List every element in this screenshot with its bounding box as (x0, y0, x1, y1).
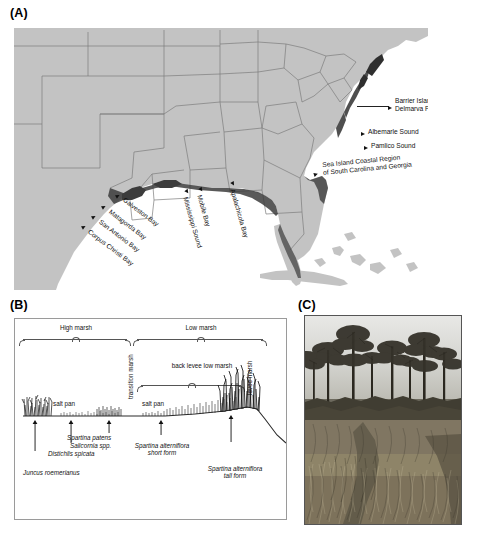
vegetation-juncus (22, 395, 52, 416)
panel-a-label: (A) (10, 6, 28, 20)
marsh-profile-graphic (15, 319, 286, 519)
spartina-short-line2: short form (148, 449, 176, 456)
panel-c-photograph (304, 315, 462, 525)
spartina-short-line1: Spartina alterniflora (135, 442, 190, 449)
arrowhead-pamlico (364, 146, 368, 150)
arrowhead-delmarva (388, 106, 392, 110)
species-label-juncus: Juncus roemerianus (23, 469, 80, 476)
spartina-tall-line2: tall form (224, 472, 246, 479)
species-label-spartina-alterniflora-short: Spartina alterniflorashort form (121, 442, 203, 457)
panel-a-map: Barrier Islands of theDelmarva Peninsula… (14, 28, 428, 290)
leader-delmarva (357, 106, 389, 107)
vegetation-transition-patch (97, 406, 121, 416)
arrowhead-albemarle (361, 132, 365, 136)
photo-grass-blades (305, 316, 461, 524)
species-label-salicornia: Salicornia spp. (70, 442, 111, 449)
species-label-spartina-alterniflora-tall: Spartina alternifloratall form (191, 465, 279, 480)
delmarva-line1: Barrier Islands of the (395, 97, 428, 104)
panel-b-label: (B) (10, 298, 28, 312)
panel-b-profile-diagram: High marsh Low marsh back levee low mars… (14, 318, 287, 520)
vegetation-high-marsh-low (61, 411, 118, 416)
map-annotation-pamlico: Pamlico Sound (371, 142, 415, 150)
delmarva-line2: Delmarva Peninsula (395, 105, 428, 112)
map-annotation-albemarle: Albemarle Sound (368, 128, 419, 136)
map-annotation-delmarva: Barrier Islands of theDelmarva Peninsula (395, 97, 428, 113)
panel-c-label: (C) (298, 298, 316, 312)
spartina-tall-line1: Spartina alterniflora (208, 465, 263, 472)
species-label-spartina-patens: Spartina patens (67, 434, 111, 441)
species-label-distichlis: Distichlis spicata (48, 450, 95, 457)
